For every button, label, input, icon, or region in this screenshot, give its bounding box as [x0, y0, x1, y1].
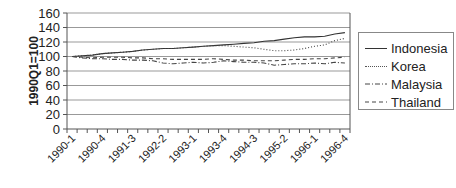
- chart-legend: Indonesia Korea Malaysia Thailand: [358, 32, 454, 110]
- x-tick-label: 1996-4: [318, 132, 351, 165]
- legend-item-malaysia: Malaysia: [365, 75, 442, 93]
- y-tick-label: 120: [38, 35, 60, 50]
- x-axis-ticks: 1990-11990-41991-31992-21993-11993-41994…: [45, 129, 351, 165]
- series-lines: [72, 33, 345, 66]
- gridlines: [67, 13, 350, 129]
- legend-item-thailand: Thailand: [365, 93, 441, 111]
- y-tick-label: 140: [38, 20, 60, 35]
- x-tick-label: 1991-3: [105, 132, 138, 165]
- x-tick-label: 1990-4: [75, 132, 108, 165]
- solid-line-icon: [365, 48, 387, 49]
- legend-label: Malaysia: [391, 77, 442, 92]
- legend-item-korea: Korea: [365, 57, 426, 75]
- y-axis-label: 1990Q1=100: [27, 36, 41, 106]
- legend-label: Thailand: [391, 95, 441, 110]
- legend-label: Indonesia: [391, 41, 447, 56]
- x-tick-label: 1996-1: [287, 132, 320, 165]
- x-tick-label: 1995-2: [257, 132, 290, 165]
- dashdot-line-icon: [365, 83, 387, 85]
- legend-label: Korea: [391, 59, 426, 74]
- x-tick-label: 1994-3: [227, 132, 260, 165]
- series-line-indonesia: [72, 33, 345, 57]
- y-tick-label: 60: [46, 78, 60, 93]
- y-tick-label: 40: [46, 93, 60, 108]
- x-tick-label: 1990-1: [45, 132, 78, 165]
- y-tick-label: 160: [38, 6, 60, 21]
- y-tick-label: 80: [46, 64, 60, 79]
- dotted-line-icon: [365, 66, 387, 67]
- x-tick-label: 1992-2: [136, 132, 169, 165]
- series-line-thailand: [72, 57, 345, 61]
- y-tick-label: 20: [46, 107, 60, 122]
- y-tick-label: 0: [53, 122, 60, 137]
- legend-item-indonesia: Indonesia: [365, 39, 447, 57]
- y-axis-ticks: 020406080100120140160: [38, 6, 67, 137]
- x-tick-label: 1993-4: [196, 132, 229, 165]
- dashed-line-icon: [365, 101, 387, 103]
- y-tick-label: 100: [38, 49, 60, 64]
- series-line-malaysia: [72, 57, 345, 66]
- x-tick-label: 1993-1: [166, 132, 199, 165]
- series-line-korea: [72, 38, 345, 56]
